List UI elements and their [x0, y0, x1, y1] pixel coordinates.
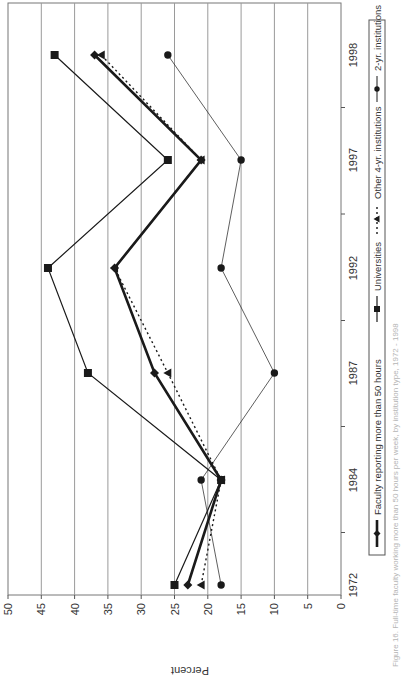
y-axis-ticks: 05101520253035404550 — [2, 595, 347, 615]
square-marker — [44, 264, 52, 272]
circle-marker — [164, 51, 171, 58]
x-axis-ticks: 197219841987199219971998 — [341, 43, 359, 597]
y-tick-label: 5 — [302, 603, 314, 609]
circle-marker — [237, 156, 244, 163]
legend: Faculty reporting more than 50 hoursUniv… — [369, 5, 385, 555]
y-tick-label: 10 — [268, 603, 280, 615]
circle-marker — [271, 369, 278, 376]
y-tick-label: 35 — [102, 603, 114, 615]
series-line — [95, 55, 222, 585]
y-axis-label: Percent — [171, 665, 209, 677]
x-tick-label: 1972 — [347, 573, 359, 597]
y-tick-label: 0 — [335, 603, 347, 609]
data-series — [44, 51, 278, 590]
square-marker — [84, 369, 92, 377]
legend-label: Faculty reporting more than 50 hours — [372, 359, 383, 515]
series-line — [168, 55, 275, 585]
y-tick-label: 15 — [235, 603, 247, 615]
legend-label: Other 4-yr. institutions — [372, 106, 383, 199]
series-circle — [164, 51, 278, 588]
y-tick-label: 25 — [169, 603, 181, 615]
x-tick-label: 1987 — [347, 361, 359, 385]
y-tick-label: 40 — [69, 603, 81, 615]
circle-marker — [217, 264, 224, 271]
legend-label: Universities — [372, 242, 383, 291]
triangle-marker — [197, 581, 205, 590]
y-tick-label: 30 — [135, 603, 147, 615]
diamond-marker — [183, 581, 192, 590]
circle-marker — [374, 86, 379, 91]
x-tick-label: 1984 — [347, 468, 359, 492]
series-triangle — [97, 51, 225, 590]
square-marker — [51, 51, 59, 59]
y-tick-label: 45 — [35, 603, 47, 615]
y-tick-label: 20 — [202, 603, 214, 615]
circle-marker — [197, 476, 204, 483]
legend-label: 2-yr. institutions — [372, 5, 383, 71]
gridlines — [8, 3, 341, 595]
y-tick-label: 50 — [2, 603, 14, 615]
triangle-marker — [163, 369, 171, 378]
series-line — [101, 55, 221, 585]
series-diamond — [90, 51, 226, 590]
square-marker — [171, 581, 179, 589]
x-tick-label: 1998 — [347, 43, 359, 67]
line-chart: 05101520253035404550 1972198419871992199… — [0, 0, 405, 677]
circle-marker — [217, 581, 224, 588]
x-tick-label: 1992 — [347, 256, 359, 280]
square-marker — [164, 156, 172, 164]
x-tick-label: 1997 — [347, 148, 359, 172]
square-marker — [374, 306, 380, 312]
chart-rotated-container: 05101520253035404550 1972198419871992199… — [0, 0, 405, 677]
figure-caption: Figure 16. Full-time faculty working mor… — [391, 323, 400, 667]
